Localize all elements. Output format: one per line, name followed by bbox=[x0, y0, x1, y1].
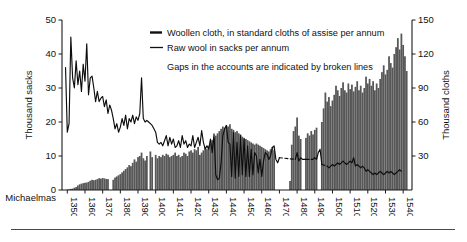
cloth-bar bbox=[298, 136, 300, 190]
cloth-bar bbox=[88, 182, 90, 190]
bottom-divider-rule bbox=[11, 229, 455, 230]
cloth-bar bbox=[365, 77, 367, 190]
cloth-bar bbox=[393, 54, 395, 190]
cloth-bar bbox=[127, 167, 129, 190]
cloth-bar bbox=[112, 180, 114, 190]
cloth-bar bbox=[333, 95, 335, 190]
x-tick-label: 1390 bbox=[140, 197, 151, 216]
cloth-bar bbox=[402, 45, 404, 190]
y-tick-label: 20 bbox=[45, 116, 56, 127]
x-tick-label: 1500 bbox=[334, 197, 345, 216]
cloth-bar bbox=[181, 156, 183, 190]
cloth-bar bbox=[201, 153, 203, 190]
cloth-bar bbox=[344, 90, 346, 190]
cloth-bar bbox=[139, 156, 141, 190]
x-tick-label: 1510 bbox=[352, 197, 363, 216]
cloth-bar bbox=[355, 87, 357, 190]
cloth-bar bbox=[146, 156, 148, 190]
cloth-bar bbox=[134, 159, 136, 190]
y-tick-label: 50 bbox=[45, 14, 56, 25]
cloth-bar bbox=[162, 155, 164, 190]
cloth-bar bbox=[105, 179, 107, 190]
y-axis-title: Thousand sacks bbox=[23, 70, 34, 139]
cloth-bar bbox=[374, 90, 376, 190]
chart-svg: 0102030405030609012015013501360137013801… bbox=[0, 0, 467, 216]
cloth-bar bbox=[84, 183, 86, 190]
x-tick-label: 1400 bbox=[157, 197, 168, 216]
origin-label: Michaelmas bbox=[5, 192, 56, 203]
figure-root: 0102030405030609012015013501360137013801… bbox=[0, 0, 467, 242]
x-tick-label: 1470 bbox=[281, 197, 292, 216]
cloth-bar bbox=[273, 150, 275, 190]
cloth-bar bbox=[174, 153, 176, 190]
cloth-bar bbox=[293, 131, 295, 190]
cloth-bar bbox=[314, 130, 316, 190]
cloth-bar bbox=[150, 151, 152, 190]
cloth-bar bbox=[137, 157, 139, 190]
x-tick-label: 1430 bbox=[210, 197, 221, 216]
y2-tick-label: 120 bbox=[418, 48, 434, 59]
cloth-bar bbox=[195, 150, 197, 190]
x-tick-label: 1490 bbox=[316, 197, 327, 216]
cloth-bar bbox=[346, 93, 348, 190]
cloth-bar bbox=[128, 165, 130, 190]
y2-tick-label: 90 bbox=[418, 82, 429, 93]
cloth-bar bbox=[86, 183, 88, 190]
cloth-bar bbox=[93, 180, 95, 190]
cloth-bar bbox=[176, 156, 178, 190]
cloth-bar bbox=[358, 90, 360, 190]
cloth-bar bbox=[218, 131, 220, 190]
cloth-bar bbox=[378, 88, 380, 190]
cloth-bar bbox=[323, 108, 325, 190]
cloth-bar bbox=[347, 83, 349, 190]
cloth-bar bbox=[305, 138, 307, 190]
y-tick-label: 10 bbox=[45, 150, 56, 161]
cloth-bar bbox=[330, 106, 332, 190]
cloth-bar bbox=[142, 158, 144, 190]
cloth-bar bbox=[309, 136, 311, 190]
cloth-bar bbox=[210, 144, 212, 190]
cloth-bar bbox=[217, 133, 219, 190]
cloth-bar bbox=[155, 155, 157, 190]
cloth-bar bbox=[77, 185, 79, 190]
x-tick-label: 1380 bbox=[122, 197, 133, 216]
cloth-bar bbox=[204, 147, 206, 190]
cloth-bar bbox=[185, 154, 187, 190]
x-tick-label: 1360 bbox=[87, 197, 98, 216]
y2-tick-label: 150 bbox=[418, 14, 434, 25]
cloth-bar bbox=[360, 86, 362, 190]
cloth-bar bbox=[326, 102, 328, 190]
cloth-bar bbox=[100, 179, 102, 190]
y-tick-label: 40 bbox=[45, 48, 56, 59]
cloth-bar bbox=[307, 133, 309, 190]
cloth-bar bbox=[187, 156, 189, 190]
cloth-bar bbox=[119, 174, 121, 190]
cloth-bar bbox=[397, 38, 399, 190]
legend-layer: Woollen cloth, in standard cloths of ass… bbox=[150, 28, 385, 72]
cloth-bar bbox=[116, 176, 118, 190]
cloth-bar bbox=[192, 153, 194, 190]
cloth-bar bbox=[141, 153, 143, 190]
cloth-bar bbox=[169, 157, 171, 190]
cloth-bar bbox=[194, 149, 196, 190]
cloth-bar bbox=[98, 178, 100, 190]
cloth-bar bbox=[96, 179, 98, 190]
x-tick-label: 1420 bbox=[193, 197, 204, 216]
y2-tick-label: 60 bbox=[418, 116, 429, 127]
cloth-bar bbox=[310, 131, 312, 190]
x-tick-label: 1350 bbox=[69, 197, 80, 216]
cloth-bar bbox=[114, 178, 116, 190]
cloth-bar bbox=[351, 85, 353, 190]
cloth-bar bbox=[197, 147, 199, 190]
cloth-bar bbox=[79, 184, 81, 190]
x-tick-label: 1540 bbox=[405, 197, 416, 216]
cloth-bar bbox=[328, 97, 330, 190]
cloth-bar bbox=[349, 89, 351, 190]
cloth-bar bbox=[199, 155, 201, 190]
y2-axis-title: Thousand cloths bbox=[440, 70, 451, 140]
cloth-bar bbox=[340, 88, 342, 190]
cloth-bar bbox=[160, 157, 162, 190]
cloth-bar bbox=[363, 88, 365, 190]
cloth-bar bbox=[89, 181, 91, 190]
cloth-bar bbox=[164, 156, 166, 190]
